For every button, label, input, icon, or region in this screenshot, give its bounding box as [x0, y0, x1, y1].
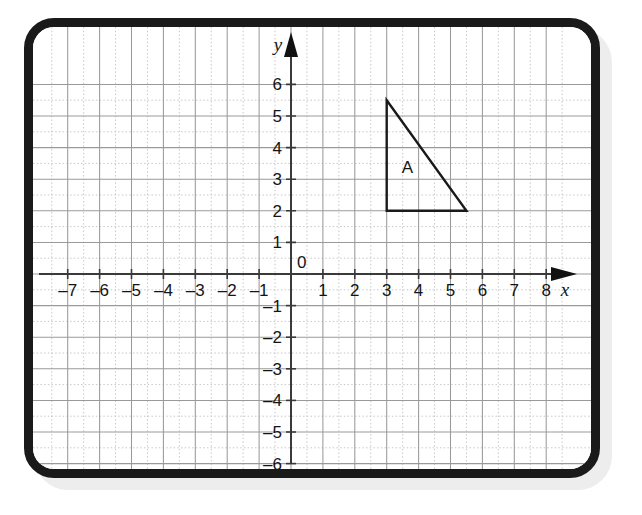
shape-label-a: A	[402, 158, 414, 177]
whiteboard-scene: –7–6–5–4–3–2–112345678 654321–1–2–3–4–5–…	[0, 0, 642, 515]
x-axis-tick-labels: –7–6–5–4–3–2–112345678	[58, 281, 551, 300]
x-tick-label: –4	[154, 281, 173, 300]
y-tick-label: 3	[273, 170, 282, 189]
x-tick-label: –5	[122, 281, 141, 300]
x-tick-label: –3	[186, 281, 205, 300]
plotted-shapes: A	[387, 100, 467, 211]
x-tick-label: 5	[446, 281, 455, 300]
y-tick-label: 4	[273, 139, 282, 158]
axis-name-labels: xy	[272, 34, 570, 300]
y-tick-label: –6	[263, 455, 282, 469]
minor-gridlines	[33, 27, 591, 469]
y-axis-tick-labels: 654321–1–2–3–4–5–6	[263, 75, 282, 469]
major-gridlines	[33, 27, 591, 469]
y-tick-label: –2	[263, 328, 282, 347]
x-tick-label: 2	[350, 281, 359, 300]
whiteboard-frame: –7–6–5–4–3–2–112345678 654321–1–2–3–4–5–…	[24, 18, 600, 478]
x-axis-name-label: x	[560, 279, 570, 300]
shape-a	[387, 100, 467, 211]
x-tick-label: 1	[318, 281, 327, 300]
x-tick-label: –7	[58, 281, 77, 300]
y-tick-label: 5	[273, 107, 282, 126]
origin-label-group: 0	[297, 253, 306, 272]
y-tick-label: –1	[263, 297, 282, 316]
x-tick-label: 6	[478, 281, 487, 300]
coordinate-plane-svg: –7–6–5–4–3–2–112345678 654321–1–2–3–4–5–…	[33, 27, 591, 469]
x-tick-label: 7	[510, 281, 519, 300]
y-axis-name-label: y	[272, 34, 283, 55]
origin-label: 0	[297, 253, 306, 272]
y-axis-arrowhead	[284, 32, 298, 57]
x-tick-label: 3	[382, 281, 391, 300]
x-tick-label: 8	[541, 281, 550, 300]
y-tick-label: –5	[263, 423, 282, 442]
x-tick-label: –2	[218, 281, 237, 300]
y-tick-label: 2	[273, 202, 282, 221]
y-tick-label: 1	[273, 233, 282, 252]
axis-lines	[39, 32, 577, 463]
x-tick-label: 4	[414, 281, 423, 300]
y-tick-label: –4	[263, 391, 282, 410]
y-tick-label: –3	[263, 360, 282, 379]
y-tick-label: 6	[273, 75, 282, 94]
coordinate-grid-surface: –7–6–5–4–3–2–112345678 654321–1–2–3–4–5–…	[33, 27, 591, 469]
x-tick-label: –6	[90, 281, 109, 300]
